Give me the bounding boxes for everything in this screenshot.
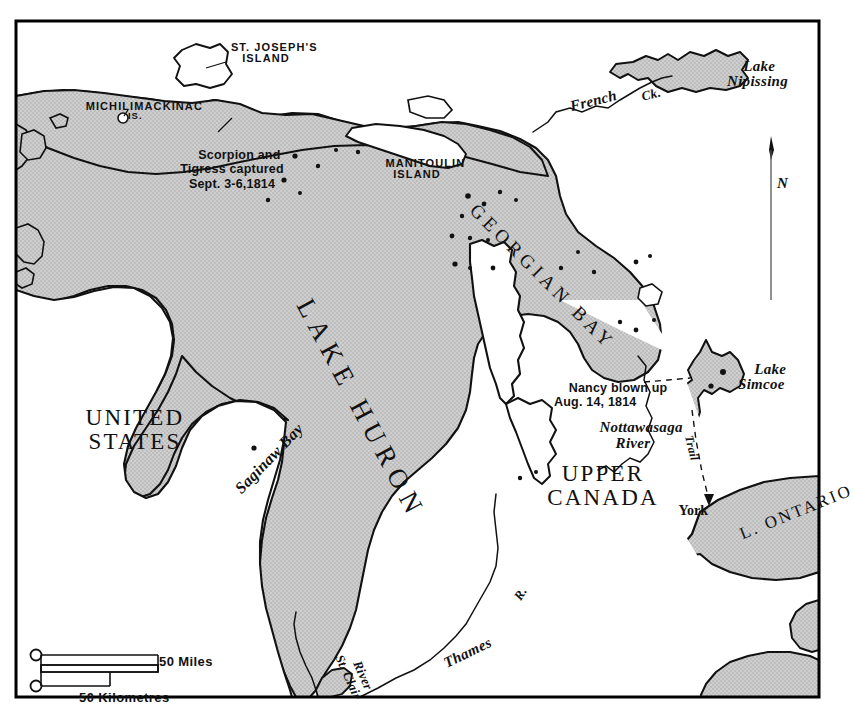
water-label-lake-simcoe: Lake Simcoe <box>738 347 786 407</box>
island-label-st-josephs-island: ST. JOSEPH'S ISLAND <box>206 30 326 77</box>
scale-kilometres-label: 50 Kilometres <box>63 677 170 714</box>
water-label-lake-nipissing: Lake Nipissing <box>727 44 788 104</box>
island-label-michilimackinac-is: IS. <box>108 101 148 131</box>
west-island-d <box>16 268 34 288</box>
compass-north-label: N <box>762 160 788 208</box>
west-island-a <box>20 130 46 160</box>
event-label-scorpion-tigress: Scorpion and Tigress captured Sept. 3-6,… <box>152 133 312 206</box>
city-label-york: York <box>665 489 708 533</box>
island-label-manitoulin-island: MANITOULIN ISLAND <box>362 146 472 193</box>
event-label-nancy-blown-up: Nancy blown up Aug. 14, 1814 <box>554 366 708 424</box>
region-label-united-states: UNITED STATES <box>40 406 230 455</box>
